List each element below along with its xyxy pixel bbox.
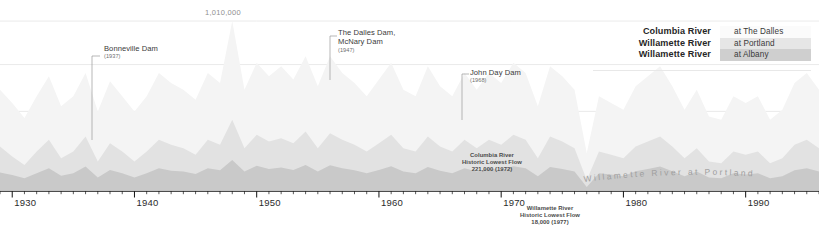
legend-location: at Albany bbox=[734, 49, 769, 61]
legend-series-name: Willamette River bbox=[593, 38, 720, 50]
legend-row[interactable]: Willamette River at Portland bbox=[593, 38, 811, 50]
legend-location: at Portland bbox=[734, 38, 775, 50]
legend-swatch-columbia-the-dalles: at The Dalles bbox=[720, 26, 811, 38]
legend-row[interactable]: Willamette River at Albany bbox=[593, 49, 811, 61]
axis-tick-label: 1970 bbox=[503, 197, 525, 208]
note-columbia-historic-lowest-flow: Columbia River Historic Lowest Flow 221,… bbox=[412, 152, 572, 174]
legend-swatch-willamette-portland: at Portland bbox=[720, 38, 811, 50]
annotation-title: Bonneville Dam bbox=[104, 44, 158, 53]
svg-text:Willamette River at Portland: Willamette River at Portland bbox=[583, 167, 755, 184]
legend-swatch-willamette-albany: at Albany bbox=[720, 49, 811, 61]
axis-tick-label: 1960 bbox=[381, 197, 403, 208]
annotation-bonneville-dam: Bonneville Dam (1937) bbox=[104, 44, 158, 61]
inline-series-label-portland: Willamette River at Portland bbox=[580, 162, 780, 190]
annotation-john-day-dam: John Day Dam (1968) bbox=[470, 68, 521, 85]
annotation-dalles-mcnary-dam: The Dalles Dam, McNary Dam (1947) bbox=[338, 28, 395, 54]
axis-tick-label: 1980 bbox=[625, 197, 647, 208]
axis-tick-label: 1930 bbox=[14, 197, 36, 208]
note-line-3: 221,000 (1972) bbox=[412, 166, 572, 173]
legend-location: at The Dalles bbox=[734, 26, 783, 38]
annotation-title: John Day Dam bbox=[470, 68, 521, 77]
note-line-1: Columbia River bbox=[412, 152, 572, 159]
legend-series-name: Columbia River bbox=[593, 26, 720, 38]
axis-tick-label: 1950 bbox=[259, 197, 281, 208]
x-axis: 1930194019501960197019801990 bbox=[0, 190, 819, 229]
axis-tick-label: 1940 bbox=[136, 197, 158, 208]
note-line-2: Historic Lowest Flow bbox=[412, 159, 572, 166]
river-flow-area-chart: 1,010,000 Bonneville Dam (1937) The Dall… bbox=[0, 0, 819, 229]
legend-series-name: Willamette River bbox=[593, 49, 720, 61]
annotation-year: (1968) bbox=[470, 77, 521, 84]
annotation-year: (1947) bbox=[338, 47, 395, 54]
legend-divider bbox=[593, 70, 811, 71]
legend: Columbia River at The Dalles Willamette … bbox=[593, 26, 811, 61]
axis-tick-label: 1990 bbox=[748, 197, 770, 208]
annotation-year: (1937) bbox=[104, 53, 158, 60]
x-axis-ticks bbox=[0, 190, 819, 210]
annotation-title-line1: The Dalles Dam, bbox=[338, 28, 395, 37]
gridline-value-label: 1,010,000 bbox=[205, 8, 241, 17]
annotation-title-line2: McNary Dam bbox=[338, 37, 395, 46]
legend-row[interactable]: Columbia River at The Dalles bbox=[593, 26, 811, 38]
